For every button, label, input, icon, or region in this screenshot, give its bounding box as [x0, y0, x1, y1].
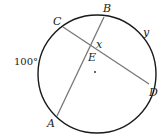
label-a: A [46, 117, 55, 130]
label-y: y [142, 26, 150, 39]
label-e: E [87, 51, 96, 64]
circle-diagram: B C y x E 100° D A [0, 0, 165, 138]
arc-label-100: 100° [14, 56, 38, 67]
chord-ab [57, 17, 104, 116]
label-b: B [102, 2, 111, 15]
label-d: D [148, 86, 158, 99]
label-x: x [96, 38, 103, 51]
center-dot [94, 71, 96, 73]
label-c: C [53, 15, 62, 28]
